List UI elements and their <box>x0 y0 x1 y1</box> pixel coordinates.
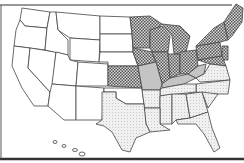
state-ms <box>160 94 172 124</box>
state-nd <box>100 16 132 34</box>
state-sd <box>100 34 133 52</box>
state-az <box>48 84 76 120</box>
state-hi-4 <box>79 152 85 156</box>
state-hi-1 <box>53 141 57 144</box>
state-wy <box>70 38 100 62</box>
state-hi-3 <box>73 149 78 152</box>
state-ks <box>108 66 142 88</box>
state-in <box>168 54 180 78</box>
state-co <box>76 62 108 86</box>
us-map <box>0 0 244 163</box>
state-ny <box>196 22 228 46</box>
state-nm <box>76 86 104 120</box>
state-hi-2 <box>62 145 66 148</box>
map-frame <box>0 0 244 163</box>
state-ne-states <box>224 4 243 40</box>
state-ar <box>142 90 160 108</box>
